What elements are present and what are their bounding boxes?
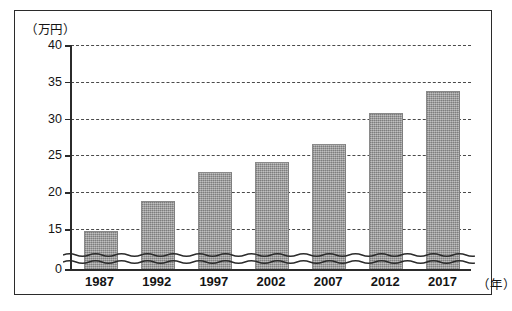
x-axis-tick-label: 1997: [184, 274, 244, 289]
gridline: [71, 82, 471, 83]
y-axis-tick-label: 15: [18, 222, 62, 236]
y-axis-tick-mark: [65, 82, 71, 84]
y-axis-tick-label: 20: [18, 185, 62, 199]
y-axis-tick-mark: [65, 229, 71, 231]
x-axis-unit-label: （年）: [477, 274, 512, 293]
y-axis-tick-label: 25: [18, 148, 62, 162]
bar: [312, 144, 346, 270]
y-axis-tick-mark: [65, 192, 71, 194]
x-axis-tick-label: 2007: [298, 274, 358, 289]
x-axis-tick-label: 2012: [355, 274, 415, 289]
y-axis-tick-label: 40: [18, 38, 62, 52]
y-axis-tick-label: 0: [18, 262, 62, 276]
y-axis-line: [70, 45, 72, 270]
bar: [426, 91, 460, 270]
y-axis-tick-label: 30: [18, 112, 62, 126]
chart-figure-frame: （万円） 0152025303540 198719921997200220072…: [14, 10, 492, 295]
gridline: [71, 155, 471, 156]
bar: [141, 201, 175, 270]
gridline: [71, 45, 471, 46]
x-axis-tick-label: 2002: [241, 274, 301, 289]
x-axis-tick-label: 2017: [412, 274, 472, 289]
y-axis-tick-mark: [65, 155, 71, 157]
x-axis-tick-label: 1992: [127, 274, 187, 289]
y-axis-tick-mark: [65, 45, 71, 47]
bar: [198, 172, 232, 270]
x-axis-line: [70, 269, 471, 271]
bar: [369, 113, 403, 270]
y-axis-tick-mark: [65, 119, 71, 121]
bar: [84, 231, 118, 270]
gridline: [71, 119, 471, 120]
y-axis-tick-label: 35: [18, 75, 62, 89]
bar: [255, 162, 289, 270]
y-axis-tick-mark: [65, 269, 71, 271]
x-axis-tick-label: 1987: [70, 274, 130, 289]
plot-area: 0152025303540 19871992199720022007201220…: [15, 11, 493, 296]
